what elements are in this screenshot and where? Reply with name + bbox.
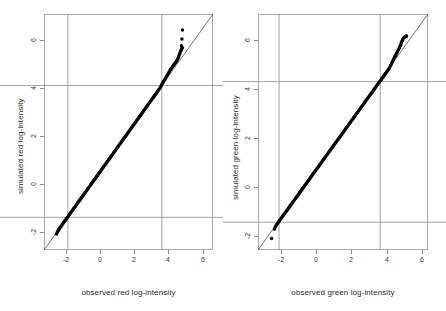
y-axis-title: simulated red log-intensity bbox=[16, 98, 25, 194]
xtick-label: 6 bbox=[412, 256, 432, 264]
xtick-mark bbox=[351, 250, 352, 254]
ytick-label: 0 bbox=[30, 176, 38, 192]
xtick-label: 4 bbox=[377, 256, 397, 264]
xtick-mark bbox=[100, 250, 101, 254]
ytick-label: -2 bbox=[244, 228, 252, 244]
xtick-label: 2 bbox=[341, 256, 361, 264]
ytick-mark bbox=[254, 40, 258, 41]
ytick-mark bbox=[40, 88, 44, 89]
ytick-label: 4 bbox=[30, 80, 38, 96]
ytick-label: 4 bbox=[244, 81, 252, 97]
xtick-mark bbox=[203, 250, 204, 254]
ytick-mark bbox=[254, 236, 258, 237]
panel-red: -2 0 2 4 6 -2 0 2 4 6 observed red log-i… bbox=[0, 0, 223, 311]
xtick-mark bbox=[316, 250, 317, 254]
xtick-label: 0 bbox=[90, 256, 110, 264]
qq-plot-figure: -2 0 2 4 6 -2 0 2 4 6 observed red log-i… bbox=[0, 0, 446, 311]
xtick-label: 6 bbox=[193, 256, 213, 264]
ytick-mark bbox=[40, 232, 44, 233]
xtick-label: 4 bbox=[158, 256, 178, 264]
scatter-canvas-green bbox=[223, 0, 446, 311]
ytick-label: 6 bbox=[244, 32, 252, 48]
y-axis-title: simulated green log-intensity bbox=[231, 95, 240, 200]
ytick-mark bbox=[40, 40, 44, 41]
xtick-label: 0 bbox=[306, 256, 326, 264]
xtick-mark bbox=[168, 250, 169, 254]
ytick-label: -2 bbox=[30, 224, 38, 240]
xtick-mark bbox=[422, 250, 423, 254]
ytick-label: 0 bbox=[244, 179, 252, 195]
ytick-label: 2 bbox=[244, 130, 252, 146]
panel-green: -2 0 2 4 6 -2 0 2 4 6 observed green log… bbox=[223, 0, 446, 311]
ytick-mark bbox=[254, 187, 258, 188]
xtick-mark bbox=[281, 250, 282, 254]
xtick-label: -2 bbox=[56, 256, 76, 264]
xtick-label: 2 bbox=[124, 256, 144, 264]
ytick-mark bbox=[40, 136, 44, 137]
xtick-mark bbox=[134, 250, 135, 254]
ytick-mark bbox=[254, 138, 258, 139]
x-axis-title: observed red log-intensity bbox=[44, 288, 213, 297]
xtick-label: -2 bbox=[271, 256, 291, 264]
xtick-mark bbox=[66, 250, 67, 254]
xtick-mark bbox=[387, 250, 388, 254]
ytick-mark bbox=[254, 89, 258, 90]
ytick-label: 2 bbox=[30, 128, 38, 144]
ytick-label: 6 bbox=[30, 32, 38, 48]
ytick-mark bbox=[40, 184, 44, 185]
x-axis-title: observed green log-intensity bbox=[258, 288, 428, 297]
